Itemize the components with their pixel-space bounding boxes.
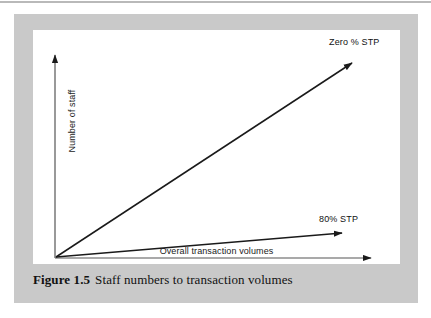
page-top-rule bbox=[0, 1, 431, 3]
series-label-zero-stp: Zero % STP bbox=[329, 37, 380, 47]
series-line-zero-stp bbox=[56, 63, 352, 257]
figure-container: Number of staff Overall transaction volu… bbox=[0, 0, 431, 318]
figure-caption-number: Figure 1.5 bbox=[33, 272, 90, 287]
figure-caption: Figure 1.5Staff numbers to transaction v… bbox=[33, 272, 413, 288]
x-axis-label: Overall transaction volumes bbox=[33, 246, 400, 256]
y-axis-label: Number of staff bbox=[67, 73, 77, 169]
figure-panel: Number of staff Overall transaction volu… bbox=[14, 14, 418, 303]
chart-svg bbox=[33, 30, 400, 264]
figure-caption-text: Staff numbers to transaction volumes bbox=[95, 272, 293, 287]
plot-area: Number of staff Overall transaction volu… bbox=[33, 30, 400, 264]
series-label-eighty-stp: 80% STP bbox=[319, 214, 358, 224]
